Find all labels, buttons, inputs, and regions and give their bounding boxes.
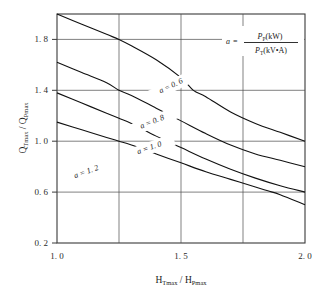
y-axis-sub-2: Pmax — [22, 102, 29, 118]
annotation-numerator-unit: (kW) — [266, 32, 283, 41]
chart-figure: 1. 8 1. 4 1. 0 0. 6 0. 2 1. 0 1. 5 2. 0 … — [0, 0, 327, 298]
x-tick-label-1.5: 1. 5 — [174, 251, 188, 261]
x-tick-label-1.0: 1. 0 — [50, 251, 64, 261]
annotation-denominator: PT(kV•A) — [254, 46, 287, 56]
y-tick-label-1.0: 1. 0 — [35, 136, 49, 146]
annotation-formula: a = PP(kW) PT(kV•A) — [222, 26, 304, 56]
x-tick-label-2.0: 2. 0 — [298, 251, 312, 261]
annotation-equals: = — [233, 37, 238, 46]
annotation-lhs: a — [226, 37, 230, 46]
annotation-numerator: PP(kW) — [257, 32, 283, 42]
y-tick-label-1.4: 1. 4 — [35, 85, 49, 95]
y-tick-label-0.2: 0. 2 — [35, 238, 49, 248]
y-axis-sub-1: Tmax — [22, 131, 29, 147]
y-tick-label-1.8: 1. 8 — [35, 34, 49, 44]
y-tick-label-0.6: 0. 6 — [35, 187, 49, 197]
chart-svg: 1. 8 1. 4 1. 0 0. 6 0. 2 1. 0 1. 5 2. 0 … — [0, 0, 327, 298]
x-axis-sub-1: Tmax — [162, 279, 178, 286]
x-axis-sub-2: Pmax — [192, 279, 208, 286]
annotation-denominator-unit: (kV•A) — [263, 46, 287, 55]
